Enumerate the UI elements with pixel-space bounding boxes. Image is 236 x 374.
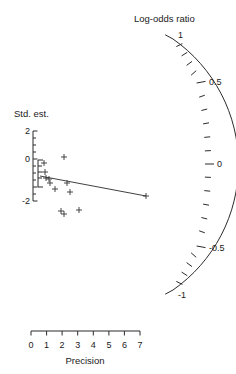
data-point — [52, 186, 58, 192]
galbraith-radial-plot: Log-odds ratio — [0, 0, 236, 374]
radial-arc-curve — [173, 39, 236, 290]
x-axis-title: Precision — [65, 355, 104, 366]
radial-arc-group: 1 0.5 0 -0.5 -1 — [165, 30, 236, 300]
y-axis-title: Std. est. — [14, 108, 49, 119]
data-point — [43, 175, 49, 181]
data-point — [58, 208, 64, 214]
regression-line — [40, 176, 146, 196]
radial-axis-title: Log-odds ratio — [134, 13, 195, 24]
x-tick-label-6: 6 — [122, 340, 127, 350]
x-tick-label-4: 4 — [91, 340, 96, 350]
data-point — [47, 180, 53, 186]
x-tick-label-1: 1 — [44, 340, 49, 350]
x-tick-label-2: 2 — [60, 340, 65, 350]
data-point — [61, 211, 67, 217]
x-tick-label-7: 7 — [137, 340, 142, 350]
data-point — [41, 160, 47, 166]
x-tick-label-5: 5 — [106, 340, 111, 350]
ci-bracket — [38, 160, 43, 187]
x-tick-label-3: 3 — [75, 340, 80, 350]
radial-label-0: 0 — [217, 159, 222, 169]
radial-label-0-5: 0.5 — [209, 77, 222, 87]
data-point — [61, 154, 67, 160]
radial-label-minus-1: -1 — [178, 290, 186, 300]
y-axis-group: 2 0 -2 — [22, 126, 38, 206]
radial-label-1: 1 — [178, 30, 183, 40]
data-point — [42, 169, 48, 175]
radial-major-ticks — [165, 35, 214, 294]
y-tick-label-minus-2: -2 — [22, 196, 30, 206]
data-point — [67, 189, 73, 195]
radial-label-minus-0-5: -0.5 — [209, 243, 225, 253]
y-tick-label-2: 2 — [25, 126, 30, 136]
data-point — [143, 193, 149, 199]
x-axis-group: 0 1 2 3 4 5 6 7 Precision — [28, 331, 142, 366]
x-tick-label-0: 0 — [28, 340, 33, 350]
data-point — [76, 207, 82, 213]
y-tick-label-0: 0 — [25, 154, 30, 164]
scatter-points — [41, 154, 149, 217]
